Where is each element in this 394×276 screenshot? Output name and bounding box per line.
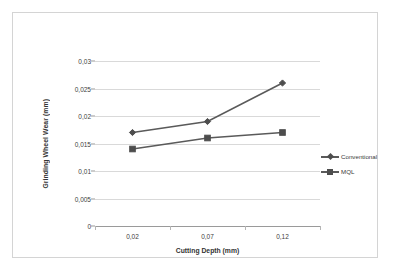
square-marker-icon [321, 167, 339, 176]
x-axis-title: Cutting Depth (mm) [95, 247, 320, 254]
data-point-marker [130, 146, 136, 152]
y-axis-title: Grinding Wheel Wear (mm) [38, 61, 52, 226]
y-tick-label: 0,01 [78, 168, 91, 175]
series-layer [95, 61, 320, 226]
data-point-marker [129, 129, 135, 135]
plot-area [95, 61, 320, 226]
legend-item-conventional[interactable]: Conventional [321, 149, 387, 164]
y-tick-label: 0,015 [75, 140, 91, 147]
x-tick-label: 0,02 [126, 233, 139, 240]
x-tick-mark [320, 226, 321, 230]
diamond-marker-icon [321, 152, 339, 161]
y-tick-label: 0,02 [78, 113, 91, 120]
data-point-marker [205, 135, 211, 141]
x-tick-label: 0,12 [276, 233, 289, 240]
data-point-marker [280, 130, 286, 136]
data-point-marker [204, 118, 210, 124]
legend-item-label: Conventional [339, 153, 377, 160]
legend-item-mql[interactable]: MQL [321, 164, 387, 179]
y-axis-ticks: 00,0050,010,0150,020,0250,03 [53, 61, 91, 226]
y-axis-title-text: Grinding Wheel Wear (mm) [42, 99, 49, 189]
x-tick-mark [245, 226, 246, 230]
x-tick-mark [95, 226, 96, 230]
chart-frame: Grinding Wheel Wear (mm) 00,0050,010,015… [12, 12, 378, 258]
legend-item-label: MQL [339, 168, 354, 175]
y-tick-label: 0,03 [78, 58, 91, 65]
chart-legend: Conventional MQL [321, 149, 387, 179]
x-tick-mark [170, 226, 171, 230]
y-tick-label: 0,025 [75, 85, 91, 92]
x-tick-label: 0,07 [201, 233, 214, 240]
y-tick-label: 0,005 [75, 195, 91, 202]
data-point-marker [279, 80, 285, 86]
x-axis-ticks: 0,020,070,12 [95, 226, 320, 248]
